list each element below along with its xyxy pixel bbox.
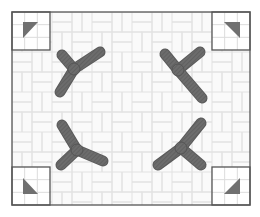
corner-box-top-left: [12, 12, 50, 50]
corner-box-bottom-right: [212, 167, 250, 205]
tile-diagram: [0, 0, 260, 217]
corner-box-bottom-left: [12, 167, 50, 205]
corner-box-top-right: [212, 12, 250, 50]
